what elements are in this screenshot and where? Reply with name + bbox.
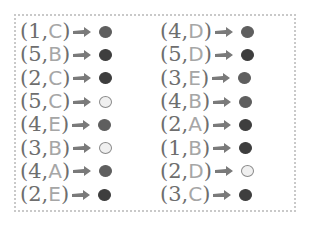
close-paren: ) bbox=[62, 89, 70, 113]
coordinate-number: 1 bbox=[168, 136, 181, 160]
arrow-right-icon bbox=[73, 97, 91, 107]
shade-circle-icon bbox=[239, 189, 252, 201]
coordinate-pair: (3,B) bbox=[20, 138, 70, 159]
close-paren: ) bbox=[62, 136, 70, 160]
coordinate-letter: A bbox=[188, 112, 202, 136]
shade-circle-icon bbox=[241, 26, 254, 38]
open-paren: ( bbox=[160, 19, 168, 43]
coordinate-entry-left: (5,B) bbox=[20, 44, 160, 65]
close-paren: ) bbox=[202, 182, 210, 206]
open-paren: ( bbox=[20, 112, 28, 136]
open-paren: ( bbox=[20, 19, 28, 43]
coordinate-number: 5 bbox=[168, 42, 181, 66]
arrow-right-icon bbox=[73, 73, 91, 83]
coordinate-number: 5 bbox=[28, 42, 41, 66]
shade-circle-icon bbox=[241, 49, 254, 61]
open-paren: ( bbox=[160, 89, 168, 113]
grid-row: (5,B)(5,D) bbox=[20, 43, 296, 66]
coordinate-letter: B bbox=[188, 89, 202, 113]
coordinate-entry-left: (1,C) bbox=[20, 21, 160, 42]
arrow-right-icon bbox=[73, 50, 91, 60]
coordinate-letter: D bbox=[188, 19, 203, 43]
open-paren: ( bbox=[160, 136, 168, 160]
coordinate-letter: E bbox=[188, 66, 201, 90]
open-paren: ( bbox=[160, 159, 168, 183]
close-paren: ) bbox=[62, 19, 70, 43]
shade-circle-icon bbox=[99, 26, 112, 38]
coordinate-letter: D bbox=[188, 159, 203, 183]
coordinate-pair: (3,E) bbox=[160, 68, 209, 89]
open-paren: ( bbox=[160, 42, 168, 66]
arrow-right-icon bbox=[215, 166, 233, 176]
close-paren: ) bbox=[202, 89, 210, 113]
grid-row: (2,C)(3,E) bbox=[20, 67, 296, 90]
arrow-right-icon bbox=[73, 143, 91, 153]
grid-row: (4,E)(2,A) bbox=[20, 113, 296, 136]
coordinate-letter: C bbox=[188, 182, 202, 206]
arrow-right-icon bbox=[213, 143, 231, 153]
open-paren: ( bbox=[20, 136, 28, 160]
coordinate-pair: (2,C) bbox=[20, 68, 70, 89]
coordinate-number: 3 bbox=[28, 136, 41, 160]
coordinate-entry-left: (2,E) bbox=[20, 184, 160, 205]
coordinate-entry-left: (3,B) bbox=[20, 138, 160, 159]
coordinate-pair: (4,D) bbox=[160, 21, 212, 42]
coordinate-letter: C bbox=[48, 66, 62, 90]
shade-circle-icon bbox=[238, 72, 251, 84]
coordinate-letter: C bbox=[48, 19, 62, 43]
coordinate-number: 5 bbox=[28, 89, 41, 113]
coordinate-entry-right: (3,C) bbox=[160, 184, 296, 205]
arrow-right-icon bbox=[215, 27, 233, 37]
coordinate-number: 2 bbox=[28, 182, 41, 206]
arrow-right-icon bbox=[213, 120, 231, 130]
coordinate-entry-right: (3,E) bbox=[160, 68, 296, 89]
coordinate-entry-left: (5,C) bbox=[20, 91, 160, 112]
coordinate-number: 3 bbox=[168, 66, 181, 90]
close-paren: ) bbox=[61, 112, 69, 136]
shade-circle-icon bbox=[239, 96, 252, 108]
coordinate-number: 4 bbox=[28, 159, 41, 183]
coordinate-letter: B bbox=[48, 136, 62, 160]
open-paren: ( bbox=[160, 112, 168, 136]
coordinate-entry-left: (2,C) bbox=[20, 68, 160, 89]
coordinate-pair: (5,B) bbox=[20, 44, 70, 65]
arrow-right-icon bbox=[213, 190, 231, 200]
grid-row: (2,E)(3,C) bbox=[20, 183, 296, 206]
coordinate-pair: (3,C) bbox=[160, 184, 210, 205]
grid-row: (5,C)(4,B) bbox=[20, 90, 296, 113]
coordinate-entry-right: (2,A) bbox=[160, 114, 296, 135]
coordinate-letter: E bbox=[48, 182, 61, 206]
coordinate-pair: (2,D) bbox=[160, 161, 212, 182]
coordinate-number: 4 bbox=[168, 19, 181, 43]
coordinate-color-grid: (1,C)(4,D)(5,B)(5,D)(2,C)(3,E)(5,C)(4,B)… bbox=[20, 20, 296, 206]
open-paren: ( bbox=[20, 66, 28, 90]
coordinate-entry-right: (1,B) bbox=[160, 138, 296, 159]
coordinate-pair: (5,C) bbox=[20, 91, 70, 112]
close-paren: ) bbox=[202, 112, 210, 136]
shade-circle-icon bbox=[241, 165, 254, 177]
coordinate-pair: (4,B) bbox=[160, 91, 210, 112]
shade-circle-icon bbox=[98, 119, 111, 131]
open-paren: ( bbox=[20, 159, 28, 183]
arrow-right-icon bbox=[72, 190, 90, 200]
arrow-right-icon bbox=[72, 120, 90, 130]
coordinate-pair: (1,B) bbox=[160, 138, 210, 159]
open-paren: ( bbox=[160, 66, 168, 90]
coordinate-letter: E bbox=[48, 112, 61, 136]
coordinate-pair: (1,C) bbox=[20, 21, 70, 42]
close-paren: ) bbox=[62, 159, 70, 183]
coordinate-letter: B bbox=[48, 42, 62, 66]
close-paren: ) bbox=[61, 182, 69, 206]
shade-circle-icon bbox=[99, 96, 112, 108]
close-paren: ) bbox=[204, 19, 212, 43]
shade-circle-icon bbox=[99, 49, 112, 61]
shade-circle-icon bbox=[239, 119, 252, 131]
grid-row: (1,C)(4,D) bbox=[20, 20, 296, 43]
coordinate-pair: (2,E) bbox=[20, 184, 69, 205]
coordinate-letter: B bbox=[188, 136, 202, 160]
coordinate-number: 4 bbox=[28, 112, 41, 136]
grid-row: (4,A)(2,D) bbox=[20, 160, 296, 183]
coordinate-entry-right: (2,D) bbox=[160, 161, 296, 182]
close-paren: ) bbox=[62, 42, 70, 66]
close-paren: ) bbox=[201, 66, 209, 90]
